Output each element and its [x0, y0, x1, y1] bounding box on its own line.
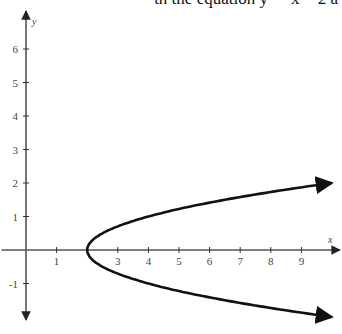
y-tick-label: 6: [13, 43, 19, 55]
axes: xy: [2, 11, 340, 320]
parabola-plot: xy 13456789-1123456: [0, 0, 342, 334]
x-tick-label: 4: [146, 255, 152, 267]
x-tick-label: 3: [115, 255, 121, 267]
y-tick-label: 2: [13, 177, 19, 189]
parabola-upper-branch: [87, 183, 332, 250]
x-tick-label: 6: [207, 255, 213, 267]
x-tick-label: 8: [268, 255, 274, 267]
x-tick-label: 7: [237, 255, 243, 267]
tick-marks: 13456789-1123456: [9, 43, 305, 290]
y-axis-label: y: [31, 16, 37, 27]
x-axis-label: x: [327, 234, 333, 245]
x-tick-label: 9: [299, 255, 305, 267]
x-tick-label: 1: [54, 255, 60, 267]
y-tick-label: 4: [13, 110, 19, 122]
y-tick-label: -1: [9, 278, 18, 290]
y-tick-label: 5: [13, 77, 19, 89]
x-tick-label: 5: [176, 255, 182, 267]
y-tick-label: 3: [13, 144, 19, 156]
y-tick-label: 1: [13, 211, 19, 223]
